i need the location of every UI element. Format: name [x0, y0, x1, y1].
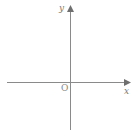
x-axis-label: x: [124, 87, 129, 96]
y-axis-label: y: [59, 4, 64, 13]
arrow-right-icon: [124, 79, 131, 86]
coordinate-system-figure: y x O: [0, 0, 138, 139]
arrow-up-icon: [67, 5, 74, 12]
axes-graphic: [0, 0, 138, 139]
origin-label: O: [61, 84, 68, 93]
